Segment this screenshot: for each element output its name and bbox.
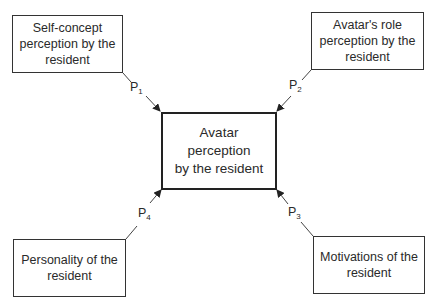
node-personality: Personality of the resident <box>13 239 126 297</box>
node-motivations: Motivations of the resident <box>313 236 425 294</box>
edge-p2-line-b <box>277 96 291 111</box>
diagram-canvas: Self-concept perception by the resident … <box>0 0 437 304</box>
node-self-concept-label: Self-concept perception by the resident <box>20 20 116 68</box>
edge-label-p1: P1 <box>130 80 143 96</box>
edge-p3-line-a <box>301 222 313 236</box>
edge-label-p1-sub: 1 <box>138 87 142 96</box>
edge-label-p2: P2 <box>289 78 302 94</box>
node-motivations-label: Motivations of the resident <box>320 249 418 281</box>
edge-p1-line-b <box>146 96 160 111</box>
edge-label-p3: P3 <box>288 205 301 221</box>
node-avatar-perception: Avatar perception by the resident <box>161 112 277 190</box>
node-avatar-role: Avatar's role perception by the resident <box>311 12 424 70</box>
node-self-concept: Self-concept perception by the resident <box>12 15 123 73</box>
edge-label-p4-sub: 4 <box>146 213 150 222</box>
node-avatar-perception-label: Avatar perception by the resident <box>167 124 271 178</box>
node-personality-label: Personality of the resident <box>21 252 118 284</box>
node-avatar-role-label: Avatar's role perception by the resident <box>320 17 416 65</box>
edge-label-p2-sub: 2 <box>297 85 301 94</box>
edge-p3-line-b <box>277 190 288 204</box>
edge-label-p3-sub: 3 <box>296 212 300 221</box>
edge-p4-line-a <box>126 226 137 239</box>
edge-label-p4: P4 <box>138 206 151 222</box>
edge-p4-line-b <box>150 190 161 203</box>
edge-p2-line-a <box>302 70 311 80</box>
